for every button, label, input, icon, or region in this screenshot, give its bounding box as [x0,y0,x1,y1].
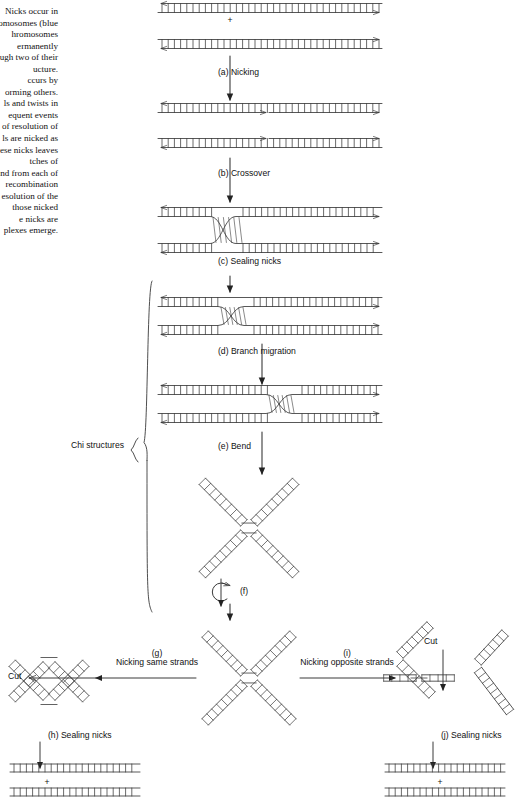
step-f-label: (f) [240,586,248,596]
cut-left-label: Cut [8,671,21,681]
step-a-label: (a) Nicking [218,67,259,77]
chi-structures-label: Chi structures [71,440,124,450]
step-d-label: (d) Branch migration [218,346,296,356]
step-g-label: Nicking same strands [116,657,198,667]
recombination-figure: Nicks occur inromosomes (bluehromosomese… [0,0,517,807]
step-i-label: Nicking opposite strands [300,657,394,667]
step-e-label: (e) Bend [218,441,251,451]
plus-sign-bottom-right: + [437,777,442,787]
plus-sign-top: + [227,15,232,25]
step-c-label: (c) Sealing nicks [218,256,281,266]
plus-sign-bottom-left: + [44,777,49,787]
cut-right-label: Cut [424,636,437,646]
step-b-label: (b) Crossover [218,168,270,178]
step-h-label: (h) Sealing nicks [48,730,112,740]
step-j-label: (j) Sealing nicks [441,730,502,740]
diagram-canvas [0,0,517,807]
